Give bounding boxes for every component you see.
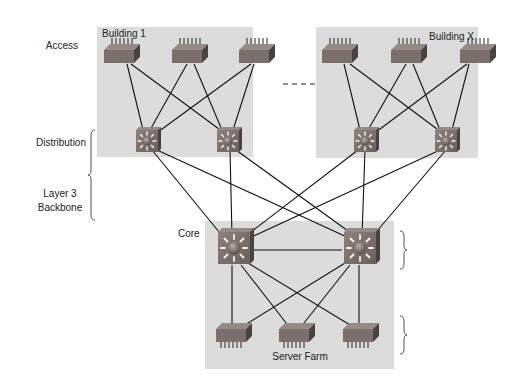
distribution-switch-bx-1 xyxy=(354,127,379,152)
core-switch-1 xyxy=(218,228,254,264)
distribution-switch-b1-1 xyxy=(136,127,161,152)
right-brace-core xyxy=(400,231,407,269)
label-distribution-layer: Distribution xyxy=(10,137,86,149)
label-building-1: Building 1 xyxy=(102,28,146,40)
label-core-layer: Core xyxy=(178,228,200,240)
core-switch-2 xyxy=(344,228,380,264)
label-server-farm: Server Farm xyxy=(250,351,350,363)
label-building-x: Building X xyxy=(400,31,474,43)
distribution-switch-bx-2 xyxy=(435,127,460,152)
label-access-layer: Access xyxy=(20,40,78,52)
right-brace-server-farm xyxy=(400,316,407,354)
label-backbone: Backbone xyxy=(30,202,90,214)
label-layer3: Layer 3 xyxy=(30,188,90,200)
distribution-switch-b1-2 xyxy=(217,127,242,152)
